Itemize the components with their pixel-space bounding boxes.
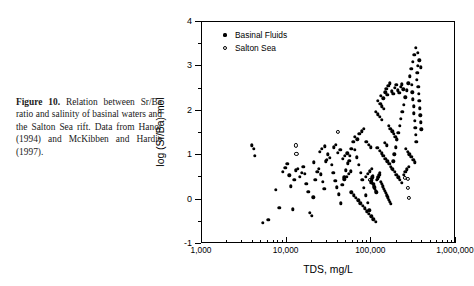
data-point (336, 130, 340, 134)
x-axis-minor-tick (357, 240, 358, 243)
data-point (401, 110, 404, 113)
x-axis-tick (370, 237, 371, 243)
y-axis-title: log (Sr/Ba) mol (155, 97, 166, 166)
data-point (345, 175, 348, 178)
y-axis-minor-tick (198, 132, 201, 133)
data-point (410, 67, 413, 70)
x-axis-minor-tick (345, 240, 346, 243)
x-axis-tick-label: 1,000 (191, 245, 212, 255)
x-axis-minor-tick (442, 240, 443, 243)
data-point (337, 193, 340, 196)
data-point (253, 154, 256, 157)
data-point (335, 185, 338, 188)
x-axis-minor-tick (282, 240, 283, 243)
data-point (388, 82, 391, 85)
data-point (353, 148, 356, 151)
data-point (323, 187, 326, 190)
data-point (393, 153, 396, 156)
data-point (323, 145, 326, 148)
y-axis-tick-label: 1 (178, 149, 192, 159)
data-point (274, 188, 277, 191)
data-point (378, 171, 381, 174)
data-point (416, 51, 419, 54)
data-point (303, 172, 306, 175)
data-point (385, 144, 388, 147)
data-point (392, 92, 395, 95)
data-point (370, 167, 373, 170)
x-axis-tick-label: 10,000 (273, 245, 299, 255)
data-point (374, 220, 377, 223)
y-axis-tick (195, 154, 201, 155)
data-point (348, 154, 351, 157)
x-axis-minor-tick (366, 240, 367, 243)
data-point (418, 106, 421, 109)
data-point (380, 118, 383, 121)
data-point (417, 92, 420, 95)
data-point (413, 161, 416, 164)
data-point (405, 177, 409, 181)
data-point (398, 91, 401, 94)
x-axis-minor-tick (226, 240, 227, 243)
data-point (339, 148, 342, 151)
data-point (312, 196, 315, 199)
x-axis-tick-label: 100,000 (355, 245, 385, 255)
y-axis-tick (195, 110, 201, 111)
x-axis-minor-tick (436, 240, 437, 243)
x-axis-minor-tick (411, 240, 412, 243)
data-point (414, 46, 417, 49)
x-axis-minor-tick (430, 240, 431, 243)
data-point (362, 186, 365, 189)
data-point (281, 170, 284, 173)
data-point (375, 191, 378, 194)
data-point (320, 147, 323, 150)
y-axis-tick-label: 0 (178, 194, 192, 204)
x-axis-minor-tick (326, 240, 327, 243)
data-point (298, 175, 301, 178)
data-point (381, 97, 384, 100)
data-point (398, 124, 401, 127)
data-point (369, 146, 372, 149)
data-point (397, 131, 400, 134)
data-point (334, 143, 337, 146)
data-point (358, 132, 361, 135)
data-point (386, 84, 389, 87)
data-point (328, 156, 331, 159)
data-point (319, 173, 322, 176)
data-point (332, 146, 335, 149)
data-point (332, 171, 335, 174)
x-axis-minor-tick (451, 240, 452, 243)
data-point (364, 175, 367, 178)
data-point (289, 185, 292, 188)
x-axis-minor-tick (273, 240, 274, 243)
x-axis-minor-tick (252, 240, 253, 243)
data-point (317, 167, 320, 170)
data-point (355, 156, 358, 159)
y-axis-tick-label: 2 (178, 105, 192, 115)
data-point (392, 160, 395, 163)
data-point (321, 180, 324, 183)
data-point (325, 158, 328, 161)
data-point (395, 83, 398, 86)
data-point (382, 107, 385, 110)
y-axis-tick (195, 65, 201, 66)
data-point (349, 169, 352, 172)
data-point (305, 182, 308, 185)
data-point (330, 163, 333, 166)
data-point (419, 66, 422, 69)
y-axis-tick-label: 3 (178, 60, 192, 70)
data-point (360, 130, 363, 133)
y-axis-minor-tick (198, 88, 201, 89)
x-axis-minor-tick (447, 240, 448, 243)
data-point (339, 201, 342, 204)
data-point (414, 133, 417, 136)
data-point (318, 150, 321, 153)
data-point (314, 178, 317, 181)
data-point (343, 177, 346, 180)
data-point (408, 74, 411, 77)
y-axis-tick-label: 4 (178, 16, 192, 26)
data-point (341, 183, 344, 186)
data-point (352, 140, 355, 143)
x-axis-tick (455, 237, 456, 243)
y-axis-minor-tick (198, 176, 201, 177)
data-point (362, 127, 365, 130)
